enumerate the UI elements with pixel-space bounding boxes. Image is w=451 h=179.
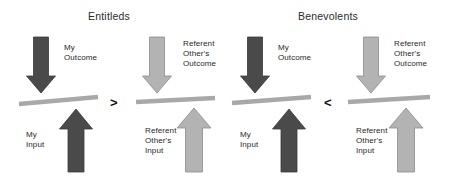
balance-beam	[136, 98, 215, 102]
outcome-label-line: Outcome	[64, 53, 97, 63]
input-label: MyInput	[240, 130, 258, 150]
outcome-label-line: My	[278, 43, 311, 53]
balance-beam	[232, 97, 311, 103]
outcome-label: MyOutcome	[64, 43, 97, 63]
outcome-down-arrow	[357, 37, 386, 93]
input-label-line: Other's	[145, 136, 176, 146]
input-label-line: My	[26, 130, 44, 140]
comparator-symbol: >	[110, 96, 118, 109]
outcome-label: ReferentOther'sOutcome	[183, 39, 216, 69]
outcome-down-arrow	[241, 37, 270, 93]
panel-title: Benevolents	[298, 10, 358, 22]
input-up-arrow	[177, 108, 211, 172]
input-label-line: Other's	[356, 136, 387, 146]
input-label: ReferentOther'sInput	[145, 126, 176, 156]
input-label-line: Referent	[356, 126, 387, 136]
input-up-arrow	[60, 109, 93, 172]
outcome-label: ReferentOther'sOutcome	[394, 39, 427, 69]
input-label-line: Input	[26, 140, 44, 150]
input-up-arrow	[389, 108, 423, 172]
input-label-line: Referent	[145, 126, 176, 136]
input-up-arrow	[273, 109, 306, 172]
input-label-line: Input	[240, 140, 258, 150]
outcome-label-line: Referent	[394, 39, 427, 49]
outcome-label-line: My	[64, 43, 97, 53]
balance-beam	[19, 97, 98, 104]
input-label-line: Input	[356, 146, 387, 156]
equity-theory-diagram: MyOutcomeMyInputReferentOther'sOutcomeRe…	[0, 0, 451, 179]
outcome-label: MyOutcome	[278, 43, 311, 63]
outcome-down-arrow	[143, 37, 172, 93]
balance-beam	[348, 97, 430, 102]
input-label-line: My	[240, 130, 258, 140]
outcome-label-line: Other's	[394, 49, 427, 59]
input-label-line: Input	[145, 146, 176, 156]
panel-title: Entitleds	[88, 10, 130, 22]
outcome-label-line: Outcome	[394, 59, 427, 69]
outcome-label-line: Other's	[183, 49, 216, 59]
outcome-label-line: Outcome	[183, 59, 216, 69]
input-label: ReferentOther'sInput	[356, 126, 387, 156]
input-label: MyInput	[26, 130, 44, 150]
outcome-label-line: Referent	[183, 39, 216, 49]
outcome-down-arrow	[27, 37, 56, 93]
outcome-label-line: Outcome	[278, 53, 311, 63]
comparator-symbol: <	[324, 96, 332, 109]
